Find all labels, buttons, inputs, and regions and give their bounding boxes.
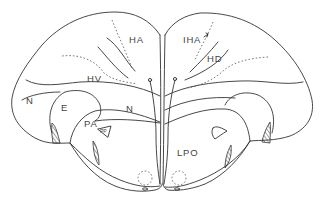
label-lpo: LPO (177, 147, 198, 158)
right-upper-arc (165, 98, 235, 111)
right-e-region-outline (225, 93, 274, 133)
brain-section-diagram: HA IHA HD HV N E N PA PP LPO (0, 0, 325, 200)
right-lpo-region-outline (165, 109, 250, 141)
right-hatched-region-1 (262, 122, 270, 143)
label-n-left: N (26, 95, 34, 106)
left-lamina-line-2 (98, 47, 128, 78)
left-ventral-boundary (70, 143, 160, 187)
right-small-ellipse (175, 188, 180, 190)
right-hv-boundary (165, 81, 303, 96)
left-tract-line (150, 81, 160, 184)
left-dashed-circle (138, 171, 152, 185)
left-medial-edge (160, 35, 161, 184)
left-small-ellipse (143, 188, 148, 190)
label-hd: HD (207, 53, 222, 64)
label-pp: PP (100, 128, 107, 134)
label-n-center: N (126, 103, 134, 114)
label-ha: HA (129, 34, 144, 45)
label-pa: PA (84, 118, 98, 129)
left-hatched-region-1 (52, 123, 60, 143)
label-e: E (61, 102, 68, 113)
right-dashed-circle (172, 171, 186, 185)
right-medial-edge (163, 35, 165, 184)
left-hatched-region-2 (93, 141, 99, 165)
right-triangle-blob (212, 127, 227, 139)
label-hv: HV (87, 73, 102, 84)
iha-arrow-icon (204, 33, 208, 37)
label-iha: IHA (183, 34, 201, 45)
left-n-boundary (95, 120, 160, 123)
